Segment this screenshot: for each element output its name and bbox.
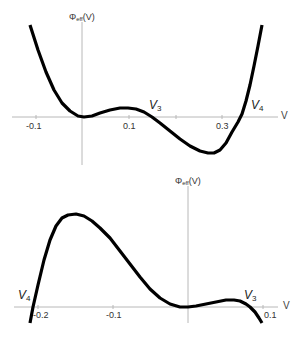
- top-x-axis-label: V: [281, 111, 288, 121]
- top-v4-annotation: V4: [251, 99, 263, 113]
- top-tick-label: 0.3: [216, 122, 229, 131]
- v4-main: V: [251, 98, 259, 112]
- bottom-x-axis-label: V: [283, 301, 290, 311]
- bottom-plot: [14, 186, 278, 323]
- bottom-tick-label: -0.1: [106, 311, 122, 320]
- bottom-y-axis-label: Φeff(V): [175, 177, 201, 186]
- top-y-axis-label: Φeff(V): [69, 13, 95, 22]
- y-label-tail: (V): [189, 176, 201, 186]
- bottom-tick-label: 0.1: [264, 311, 277, 320]
- figure: Φeff(V) V -0.1 0.1 0.3 V3 V4 Φeff(V) V -…: [0, 0, 303, 340]
- top-curve: [30, 25, 262, 153]
- v3-main: V: [149, 98, 157, 112]
- top-v3-annotation: V3: [149, 99, 161, 113]
- v3-main: V: [244, 288, 252, 302]
- top-tick-label: -0.1: [26, 122, 42, 131]
- bottom-v4-annotation: V4: [18, 289, 30, 303]
- top-tick-label: 0.1: [123, 122, 136, 131]
- v4-sub: 4: [259, 104, 263, 113]
- v4-sub: 4: [26, 294, 30, 303]
- top-plot: [12, 22, 278, 165]
- y-label-tail: (V): [83, 12, 95, 22]
- bottom-v3-annotation: V3: [244, 289, 256, 303]
- v4-main: V: [18, 288, 26, 302]
- bottom-tick-label: -0.2: [33, 311, 49, 320]
- v3-sub: 3: [252, 294, 256, 303]
- plots-svg: [0, 0, 303, 340]
- v3-sub: 3: [157, 104, 161, 113]
